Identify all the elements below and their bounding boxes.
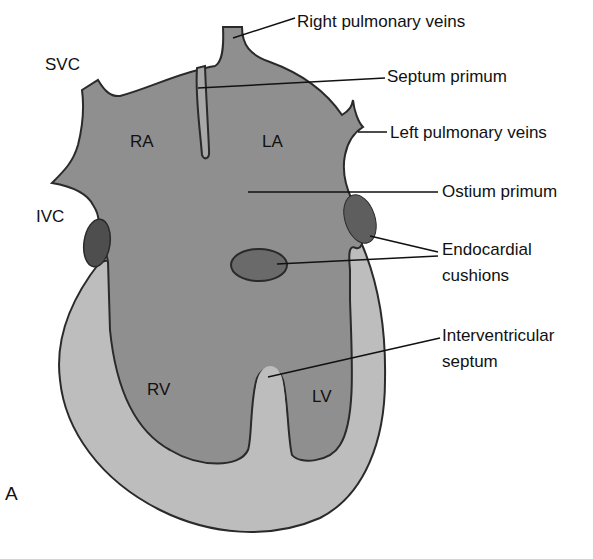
leader-endocardial-cushion-left <box>370 236 438 252</box>
label-ra: RA <box>130 132 154 151</box>
panel-label: A <box>5 483 18 504</box>
callout-endocardial-cushions-line1: Endocardial <box>442 240 532 259</box>
label-ivc: IVC <box>36 207 64 226</box>
label-lv: LV <box>312 387 332 406</box>
endocardial-cushion-central <box>231 249 287 281</box>
callout-interventricular-septum-line2: septum <box>442 352 498 371</box>
heart-development-diagram: RA LA RV LV SVC IVC Right pulmonary vein… <box>0 0 593 559</box>
callout-left-pulmonary-veins: Left pulmonary veins <box>390 123 547 142</box>
label-la: LA <box>262 132 283 151</box>
diagram-svg: RA LA RV LV SVC IVC Right pulmonary vein… <box>0 0 593 559</box>
callout-endocardial-cushions-line2: cushions <box>442 266 509 285</box>
callout-septum-primum: Septum primum <box>387 67 507 86</box>
label-rv: RV <box>147 380 171 399</box>
label-svc: SVC <box>45 55 80 74</box>
callout-interventricular-septum-line1: Interventricular <box>442 326 555 345</box>
callout-ostium-primum: Ostium primum <box>442 182 557 201</box>
callout-right-pulmonary-veins: Right pulmonary veins <box>297 12 465 31</box>
